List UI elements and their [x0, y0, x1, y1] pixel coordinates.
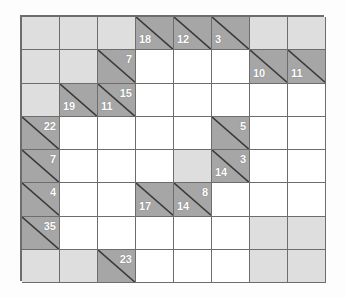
- clue-cell-r2-c3: 7: [98, 50, 136, 83]
- clue-across-value: 23: [120, 254, 132, 265]
- entry-cell-r2-c6[interactable]: [212, 50, 250, 83]
- clue-cell-r1-c6: 3: [212, 17, 250, 50]
- clue-cell-r3-c3: 1511: [98, 84, 136, 117]
- clue-down-value: 11: [291, 68, 303, 79]
- clue-down-value: 14: [177, 201, 189, 212]
- entry-cell-r5-c2[interactable]: [60, 150, 98, 183]
- blocked-cell-r1-c2: [60, 17, 98, 50]
- clue-cell-r3-c2: 19: [60, 84, 98, 117]
- clue-cell-r6-c4: 17: [136, 183, 174, 216]
- blocked-cell-r5-c5: [174, 150, 212, 183]
- entry-cell-r4-c4[interactable]: [136, 117, 174, 150]
- entry-cell-r3-c6[interactable]: [212, 84, 250, 117]
- clue-cell-r2-c7: 10: [250, 50, 288, 83]
- clue-down-value: 17: [139, 201, 151, 212]
- entry-cell-r6-c6[interactable]: [212, 183, 250, 216]
- clue-cell-r4-c6: 5: [212, 117, 250, 150]
- entry-cell-r2-c5[interactable]: [174, 50, 212, 83]
- entry-cell-r7-c6[interactable]: [212, 217, 250, 250]
- clue-cell-r1-c5: 12: [174, 17, 212, 50]
- blocked-cell-r1-c8: [288, 17, 326, 50]
- entry-cell-r4-c2[interactable]: [60, 117, 98, 150]
- entry-cell-r8-c4[interactable]: [136, 250, 174, 283]
- entry-cell-r5-c3[interactable]: [98, 150, 136, 183]
- blocked-cell-r1-c1: [22, 17, 60, 50]
- clue-cell-r1-c4: 18: [136, 17, 174, 50]
- entry-cell-r6-c3[interactable]: [98, 183, 136, 216]
- blocked-cell-r2-c1: [22, 50, 60, 83]
- entry-cell-r4-c8[interactable]: [288, 117, 326, 150]
- entry-cell-r8-c5[interactable]: [174, 250, 212, 283]
- clue-cell-r6-c5: 814: [174, 183, 212, 216]
- entry-cell-r3-c4[interactable]: [136, 84, 174, 117]
- clue-across-value: 8: [202, 187, 208, 198]
- clue-cell-r2-c8: 11: [288, 50, 326, 83]
- clue-across-value: 3: [240, 154, 246, 165]
- blocked-cell-r1-c3: [98, 17, 136, 50]
- clue-down-value: 10: [253, 68, 265, 79]
- entry-cell-r5-c4[interactable]: [136, 150, 174, 183]
- blocked-cell-r7-c7: [250, 217, 288, 250]
- clue-down-value: 3: [215, 34, 221, 45]
- clue-cell-r4-c1: 22: [22, 117, 60, 150]
- clue-across-value: 7: [50, 154, 56, 165]
- entry-cell-r4-c7[interactable]: [250, 117, 288, 150]
- entry-cell-r4-c3[interactable]: [98, 117, 136, 150]
- entry-cell-r3-c5[interactable]: [174, 84, 212, 117]
- entry-cell-r3-c7[interactable]: [250, 84, 288, 117]
- entry-cell-r7-c4[interactable]: [136, 217, 174, 250]
- entry-cell-r6-c7[interactable]: [250, 183, 288, 216]
- blocked-cell-r2-c2: [60, 50, 98, 83]
- blocked-cell-r7-c8: [288, 217, 326, 250]
- kakuro-puzzle: 181237101119151122573144178143523: [0, 0, 345, 297]
- clue-down-value: 14: [215, 167, 227, 178]
- clue-across-value: 15: [120, 88, 132, 99]
- entry-cell-r7-c2[interactable]: [60, 217, 98, 250]
- clue-cell-r7-c1: 35: [22, 217, 60, 250]
- clue-cell-r5-c1: 7: [22, 150, 60, 183]
- clue-across-value: 7: [126, 54, 132, 65]
- clue-cell-r6-c1: 4: [22, 183, 60, 216]
- blocked-cell-r1-c7: [250, 17, 288, 50]
- clue-across-value: 5: [240, 121, 246, 132]
- entry-cell-r5-c8[interactable]: [288, 150, 326, 183]
- entry-cell-r7-c5[interactable]: [174, 217, 212, 250]
- entry-cell-r6-c8[interactable]: [288, 183, 326, 216]
- kakuro-grid[interactable]: 181237101119151122573144178143523: [20, 15, 324, 281]
- clue-across-value: 4: [50, 187, 56, 198]
- clue-down-value: 19: [63, 101, 75, 112]
- entry-cell-r6-c2[interactable]: [60, 183, 98, 216]
- blocked-cell-r3-c1: [22, 84, 60, 117]
- clue-across-value: 22: [44, 121, 56, 132]
- clue-cell-r5-c6: 314: [212, 150, 250, 183]
- blocked-cell-r8-c8: [288, 250, 326, 283]
- entry-cell-r7-c3[interactable]: [98, 217, 136, 250]
- clue-cell-r8-c3: 23: [98, 250, 136, 283]
- blocked-cell-r8-c7: [250, 250, 288, 283]
- clue-across-value: 35: [44, 221, 56, 232]
- clue-down-value: 18: [139, 34, 151, 45]
- blocked-cell-r8-c1: [22, 250, 60, 283]
- blocked-cell-r8-c2: [60, 250, 98, 283]
- clue-down-value: 11: [101, 101, 113, 112]
- entry-cell-r2-c4[interactable]: [136, 50, 174, 83]
- entry-cell-r8-c6[interactable]: [212, 250, 250, 283]
- entry-cell-r4-c5[interactable]: [174, 117, 212, 150]
- entry-cell-r3-c8[interactable]: [288, 84, 326, 117]
- clue-down-value: 12: [177, 34, 189, 45]
- entry-cell-r5-c7[interactable]: [250, 150, 288, 183]
